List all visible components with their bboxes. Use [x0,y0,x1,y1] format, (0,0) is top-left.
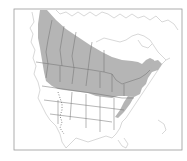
range-map [0,0,187,161]
